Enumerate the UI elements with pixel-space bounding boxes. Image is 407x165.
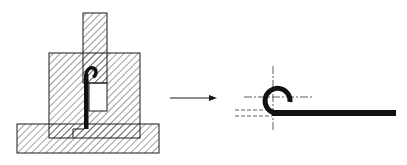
arrow-head-icon <box>209 95 217 101</box>
curled-part-view <box>235 66 396 131</box>
transformation-arrow <box>170 95 217 101</box>
part-flat-strip <box>272 110 396 116</box>
die-assembly-section <box>17 13 159 153</box>
diagram-svg <box>0 0 407 165</box>
strip-vertical <box>84 74 89 129</box>
part-curl <box>265 88 290 113</box>
die-cavity <box>89 83 107 111</box>
diagram-canvas <box>0 0 407 165</box>
